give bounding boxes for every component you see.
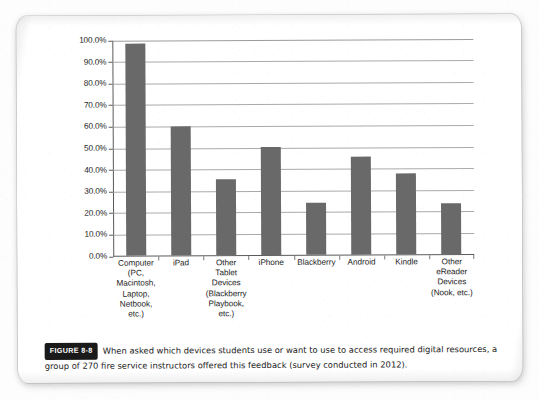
scanned-page-background: 0.0%10.0%20.0%30.0%40.0%50.0%60.0%70.0%8…	[0, 0, 539, 400]
y-axis-tick-label: 60.0%	[51, 123, 107, 131]
figure-caption: FIGURE 8-8When asked which devices stude…	[45, 341, 501, 373]
y-axis-tick-mark	[109, 256, 113, 257]
figure-caption-text: When asked which devices students use or…	[45, 344, 498, 371]
bar	[170, 127, 191, 256]
bar	[125, 44, 146, 256]
x-axis-category-label: Other eReader Devices (Nook, etc.)	[425, 257, 478, 298]
bar	[306, 203, 326, 255]
y-axis-tick-label: 40.0%	[51, 166, 107, 174]
y-axis-tick-label: 30.0%	[51, 188, 107, 196]
gridline	[113, 103, 474, 106]
gridline	[113, 168, 474, 171]
y-axis-tick-label: 0.0%	[51, 253, 107, 261]
figure-bar-chart: 0.0%10.0%20.0%30.0%40.0%50.0%60.0%70.0%8…	[16, 14, 523, 383]
y-axis-tick-mark	[109, 148, 113, 149]
gridline	[112, 60, 473, 63]
gridline	[113, 211, 474, 214]
gridline	[112, 82, 473, 85]
plot-area	[112, 39, 474, 257]
y-axis-tick-mark	[109, 235, 113, 236]
bar	[261, 147, 281, 255]
y-axis-tick-mark	[109, 170, 113, 171]
y-axis-tick-mark	[108, 62, 112, 63]
y-axis-tick-labels: 0.0%10.0%20.0%30.0%40.0%50.0%60.0%70.0%8…	[44, 16, 107, 336]
gridline	[113, 233, 474, 236]
bar	[396, 173, 416, 254]
y-axis-tick-mark	[108, 40, 112, 41]
figure-number-badge: FIGURE 8-8	[45, 342, 98, 359]
y-axis-tick-label: 10.0%	[51, 231, 107, 239]
x-axis-category-labels: Computer (PC, Macintosh, Laptop, Netbook…	[113, 257, 474, 337]
y-axis-tick-mark	[109, 127, 113, 128]
y-axis-tick-label: 50.0%	[51, 145, 107, 153]
y-axis-tick-mark	[109, 105, 113, 106]
bar	[216, 180, 236, 256]
y-axis-tick-label: 90.0%	[50, 58, 106, 66]
y-axis-tick-label: 20.0%	[51, 209, 107, 217]
gridline	[112, 39, 473, 42]
y-axis-tick-label: 70.0%	[51, 101, 107, 109]
gridline	[113, 147, 474, 150]
gridline	[113, 125, 474, 128]
y-axis-tick-label: 100.0%	[50, 37, 106, 45]
y-axis-tick-label: 80.0%	[50, 80, 106, 88]
bar	[441, 203, 461, 254]
bar	[351, 156, 371, 254]
y-axis-tick-mark	[109, 213, 113, 214]
y-axis-tick-mark	[109, 191, 113, 192]
gridline	[113, 190, 474, 193]
y-axis-tick-mark	[108, 83, 112, 84]
